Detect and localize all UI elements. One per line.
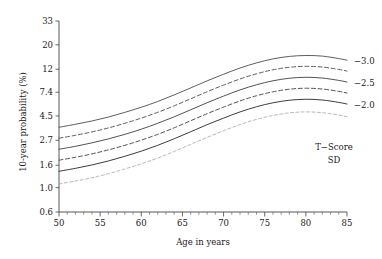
- y-axis-tick-label: 2.7: [39, 135, 53, 145]
- x-axis-tick-label: 60: [136, 218, 147, 228]
- x-axis-tick-label: 65: [177, 218, 188, 228]
- y-axis-title: 10-year probability (%): [18, 72, 28, 172]
- y-axis-tick-label: 1.0: [39, 183, 53, 193]
- x-axis-tick-label: 50: [54, 218, 65, 228]
- x-axis-tick-label: 75: [259, 218, 270, 228]
- legend-entry-label: −2.0: [354, 100, 375, 110]
- x-axis-tick-label: 80: [300, 218, 311, 228]
- chart-canvas: 0.61.01.62.74.57.4122033 505560657075808…: [0, 0, 382, 259]
- y-axis-tick-label: 1.6: [39, 160, 53, 170]
- x-axis-title: Age in years: [175, 237, 230, 247]
- y-axis-tick-label: 7.4: [39, 87, 53, 97]
- x-axis-tick-label: 70: [218, 218, 229, 228]
- x-axis-tick-label: 85: [342, 218, 353, 228]
- legend-title-line1: T−Score: [315, 142, 353, 152]
- legend-entry-label: −2.5: [354, 78, 375, 88]
- y-axis-tick-label: 4.5: [39, 111, 53, 121]
- legend-entry-label: −3.0: [354, 56, 375, 66]
- y-axis-tick-label: 12: [42, 64, 53, 74]
- y-axis-tick-label: 20: [42, 40, 53, 50]
- x-axis-tick-label: 55: [95, 218, 106, 228]
- y-axis-tick-label: 33: [42, 16, 53, 26]
- legend-title-line2: SD: [328, 155, 341, 165]
- y-axis-tick-label: 0.6: [39, 207, 53, 217]
